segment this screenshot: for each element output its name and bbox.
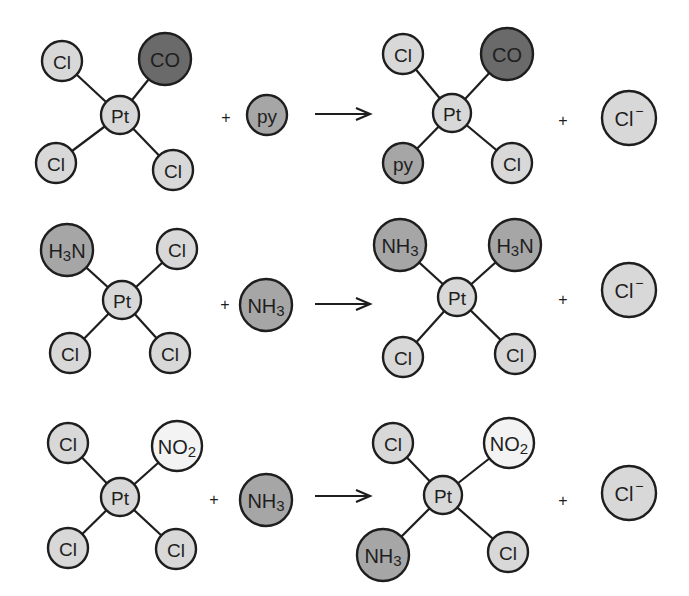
plus-sign: + bbox=[220, 296, 229, 313]
atom-label: Cl bbox=[394, 348, 412, 369]
ligand-cl: Cl bbox=[36, 143, 76, 183]
atom-label: Pt bbox=[113, 291, 132, 312]
ligand-cl: Cl bbox=[492, 143, 532, 183]
ligand-cl: Cl bbox=[157, 229, 197, 269]
ligand-cl: Cl bbox=[153, 150, 193, 190]
leaving-group-chloride: Cl− bbox=[602, 466, 656, 520]
atom-label: Pt bbox=[111, 488, 130, 509]
atom-label: Pt bbox=[448, 288, 467, 309]
plus-sign: + bbox=[558, 291, 567, 308]
ligand-cl: Cl bbox=[373, 423, 413, 463]
reaction-scheme-canvas: PtClCOClCl+pyPtClCOpyCl+Cl−PtH3NClClCl+N… bbox=[0, 0, 689, 596]
atom-label: Cl bbox=[503, 154, 521, 175]
ligand-h3n: H3N bbox=[41, 224, 93, 276]
atom-label: Cl bbox=[164, 161, 182, 182]
ligand-cl: Cl bbox=[495, 334, 535, 374]
atom-label: Pt bbox=[111, 106, 130, 127]
metal-center-pt: Pt bbox=[438, 278, 476, 316]
ligand-cl: Cl bbox=[48, 423, 88, 463]
leaving-group-chloride: Cl− bbox=[602, 91, 656, 145]
atom-label: Cl bbox=[384, 434, 402, 455]
metal-center-pt: Pt bbox=[101, 96, 139, 134]
ligand-cl: Cl bbox=[50, 333, 90, 373]
ligand-no2: NO2 bbox=[152, 421, 202, 471]
atom-label: Cl bbox=[506, 345, 524, 366]
atom-label: py bbox=[393, 154, 414, 175]
reaction-diagram: PtClCOClCl+pyPtClCOpyCl+Cl−PtH3NClClCl+N… bbox=[0, 0, 689, 596]
ligand-cl: Cl bbox=[42, 41, 82, 81]
ligand-py: py bbox=[383, 143, 423, 183]
ligand-cl: Cl bbox=[150, 333, 190, 373]
metal-center-pt: Pt bbox=[433, 94, 471, 132]
incoming-ligand: NH3 bbox=[240, 474, 292, 526]
incoming-ligand: NH3 bbox=[240, 279, 292, 331]
atom-label: Cl bbox=[394, 45, 412, 66]
plus-sign: + bbox=[221, 109, 230, 126]
metal-center-pt: Pt bbox=[103, 281, 141, 319]
ligand-cl: Cl bbox=[488, 532, 528, 572]
ligand-cl: Cl bbox=[48, 528, 88, 568]
atom-label: py bbox=[257, 106, 278, 127]
metal-center-pt: Pt bbox=[101, 478, 139, 516]
atom-label: Cl bbox=[47, 154, 65, 175]
ligand-h3n: H3N bbox=[489, 219, 541, 271]
atom-label: Cl bbox=[161, 344, 179, 365]
ligand-co: CO bbox=[481, 28, 533, 80]
atom-label: Cl bbox=[59, 539, 77, 560]
atom-label: Pt bbox=[434, 486, 453, 507]
leaving-group-chloride: Cl− bbox=[602, 263, 656, 317]
ligand-nh3: NH3 bbox=[357, 529, 409, 581]
plus-sign: + bbox=[209, 491, 218, 508]
ligand-no2: NO2 bbox=[484, 418, 534, 468]
plus-sign: + bbox=[558, 112, 567, 129]
ligand-cl: Cl bbox=[156, 529, 196, 569]
atom-label: CO bbox=[150, 49, 180, 71]
atom-label: Pt bbox=[443, 104, 462, 125]
atom-label: CO bbox=[492, 44, 522, 66]
atom-label: Cl bbox=[61, 344, 79, 365]
metal-center-pt: Pt bbox=[424, 476, 462, 514]
atom-label: Cl bbox=[53, 52, 71, 73]
atom-label: Cl bbox=[59, 434, 77, 455]
plus-sign: + bbox=[558, 492, 567, 509]
incoming-ligand: py bbox=[247, 95, 287, 135]
ligand-cl: Cl bbox=[383, 34, 423, 74]
atom-label: Cl bbox=[167, 540, 185, 561]
ligand-co: CO bbox=[139, 33, 191, 85]
atom-label: Cl bbox=[168, 240, 186, 261]
atom-label: Cl bbox=[499, 543, 517, 564]
ligand-nh3: NH3 bbox=[374, 219, 426, 271]
ligand-cl: Cl bbox=[383, 337, 423, 377]
